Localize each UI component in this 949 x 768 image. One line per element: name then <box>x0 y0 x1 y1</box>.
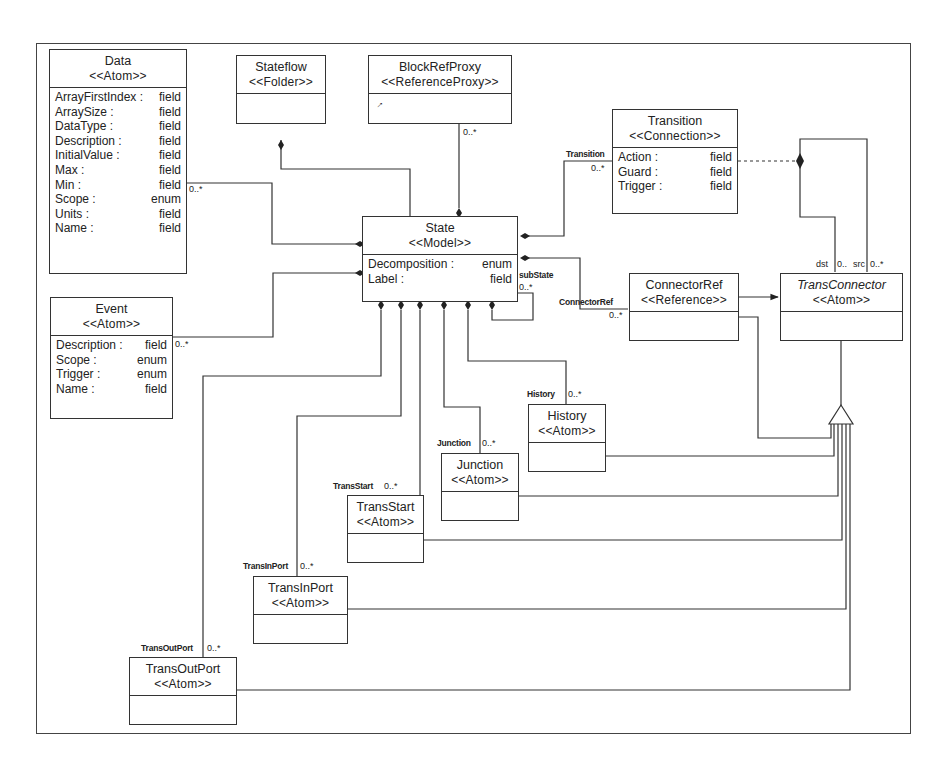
attribute-name: Min : <box>55 178 81 193</box>
multiplicity-label: 0..* <box>175 339 189 349</box>
attribute-type: enum <box>151 192 181 207</box>
attribute-type: enum <box>137 367 167 382</box>
attribute-name: Trigger : <box>56 367 100 382</box>
class-header: TransStart <<Atom>> <box>348 496 423 534</box>
multiplicity-label: 0..* <box>870 259 884 269</box>
class-stereotype: <<Model>> <box>365 236 515 251</box>
class-transoutport[interactable]: TransOutPort <<Atom>> <box>129 657 237 725</box>
attribute-list: Action :field Guard :field Trigger :fiel… <box>613 148 737 194</box>
class-blockrefproxy[interactable]: BlockRefProxy <<ReferenceProxy>> → <box>368 55 512 124</box>
attribute-list: ArrayFirstIndex :field ArraySize :field … <box>50 88 186 236</box>
class-name: State <box>365 221 515 236</box>
role-label: dst <box>816 259 828 269</box>
class-transition[interactable]: Transition <<Connection>> Action :field … <box>612 109 738 214</box>
attribute-list: Decomposition :enum Label :field <box>363 255 517 286</box>
role-label: ConnectorRef <box>559 297 613 307</box>
attribute-name: Action : <box>618 150 658 165</box>
class-stateflow[interactable]: Stateflow <<Folder>> <box>236 55 326 124</box>
class-name: TransInPort <box>256 581 345 596</box>
multiplicity-label: 0.. <box>837 259 847 269</box>
attribute-type: field <box>159 90 181 105</box>
role-label: History <box>527 389 555 399</box>
multiplicity-label: 0..* <box>384 481 398 491</box>
attribute-row: Name :field <box>55 221 181 236</box>
attribute-type: enum <box>482 257 512 272</box>
role-label: TransStart <box>333 481 373 491</box>
inheritance-triangle <box>829 405 853 424</box>
attribute-row: Description :field <box>56 338 167 353</box>
attribute-type: field <box>159 148 181 163</box>
class-transconnector[interactable]: TransConnector <<Atom>> <box>780 273 903 341</box>
class-transinport[interactable]: TransInPort <<Atom>> <box>253 576 348 644</box>
class-data[interactable]: Data <<Atom>> ArrayFirstIndex :field Arr… <box>49 49 187 274</box>
attribute-type: field <box>159 207 181 222</box>
attribute-type: field <box>159 134 181 149</box>
attribute-row: Label :field <box>368 272 512 287</box>
class-event[interactable]: Event <<Atom>> Description :field Scope … <box>50 297 173 419</box>
class-name: TransOutPort <box>132 662 234 677</box>
class-stereotype: <<Atom>> <box>53 317 170 332</box>
class-stereotype: <<Atom>> <box>256 596 345 611</box>
class-name: Data <box>52 54 184 69</box>
class-header: Data <<Atom>> <box>50 50 186 88</box>
attribute-type: field <box>710 150 732 165</box>
attribute-row: Scope :enum <box>55 192 181 207</box>
attribute-type: field <box>145 338 167 353</box>
uml-diagram-canvas: Data <<Atom>> ArrayFirstIndex :field Arr… <box>0 0 949 768</box>
class-header: Junction <<Atom>> <box>442 454 518 492</box>
class-stereotype: <<Folder>> <box>239 75 323 90</box>
class-transstart[interactable]: TransStart <<Atom>> <box>347 495 424 563</box>
attribute-name: InitialValue : <box>55 148 119 163</box>
attribute-row: ArraySize :field <box>55 105 181 120</box>
attribute-row: Trigger :enum <box>56 367 167 382</box>
class-name: ConnectorRef <box>632 278 736 293</box>
attribute-name: Label : <box>368 272 404 287</box>
attribute-row: Units :field <box>55 207 181 222</box>
attribute-row: Guard :field <box>618 165 732 180</box>
attribute-row: InitialValue :field <box>55 148 181 163</box>
attribute-row: Trigger :field <box>618 179 732 194</box>
class-header: State <<Model>> <box>363 217 517 255</box>
class-header: TransConnector <<Atom>> <box>781 274 902 312</box>
class-stereotype: <<Atom>> <box>52 69 184 84</box>
class-header: Stateflow <<Folder>> <box>237 56 325 94</box>
edge-src <box>800 139 867 272</box>
attribute-name: Name : <box>55 221 94 236</box>
edge-history-inherit <box>605 422 834 456</box>
class-stereotype: <<Atom>> <box>444 473 516 488</box>
attribute-row: Description :field <box>55 134 181 149</box>
edge-stateflow-state <box>281 140 410 218</box>
attribute-row: Max :field <box>55 163 181 178</box>
class-header: ConnectorRef <<Reference>> <box>630 274 738 312</box>
attribute-row: Name :field <box>56 382 167 397</box>
attribute-row: Action :field <box>618 150 732 165</box>
edge-data-state <box>186 183 360 244</box>
attribute-type: field <box>159 105 181 120</box>
class-junction[interactable]: Junction <<Atom>> <box>441 453 519 521</box>
attribute-row: ArrayFirstIndex :field <box>55 90 181 105</box>
attribute-name: ArrayFirstIndex : <box>55 90 143 105</box>
attribute-type: field <box>159 163 181 178</box>
class-name: BlockRefProxy <box>371 60 509 75</box>
multiplicity-label: 0..* <box>591 163 605 173</box>
attribute-list: → <box>369 94 511 112</box>
multiplicity-label: 0..* <box>568 389 582 399</box>
attribute-type: field <box>710 179 732 194</box>
class-connectorref[interactable]: ConnectorRef <<Reference>> <box>629 273 739 341</box>
attribute-name: Description : <box>56 338 123 353</box>
edge-dst <box>800 161 835 272</box>
attribute-name: Units : <box>55 207 89 222</box>
multiplicity-label: 0..* <box>482 438 496 448</box>
attribute-name: DataType : <box>55 119 113 134</box>
attribute-row: Min :field <box>55 178 181 193</box>
class-state[interactable]: State <<Model>> Decomposition :enum Labe… <box>362 216 518 302</box>
class-history[interactable]: History <<Atom>> <box>528 404 606 472</box>
edge-event-state <box>172 273 360 337</box>
class-name: Event <box>53 302 170 317</box>
role-label: Transition <box>566 149 605 159</box>
attribute-type: field <box>159 178 181 193</box>
class-name: Transition <box>615 114 735 129</box>
attribute-name: Name : <box>56 382 95 397</box>
attribute-name: Guard : <box>618 165 658 180</box>
class-name: Junction <box>444 458 516 473</box>
